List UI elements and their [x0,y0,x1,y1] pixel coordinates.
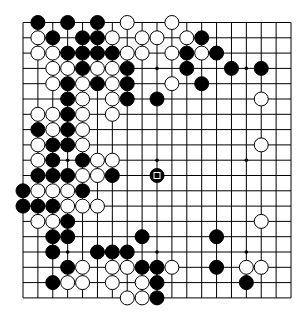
white-stone[interactable] [254,92,268,106]
white-stone[interactable] [46,107,60,121]
white-stone[interactable] [31,46,45,60]
black-stone[interactable] [31,123,45,137]
white-stone[interactable] [254,138,268,152]
white-stone[interactable] [46,123,60,137]
white-stone[interactable] [90,199,104,213]
black-stone[interactable] [210,46,224,60]
black-stone[interactable] [150,291,164,305]
black-stone[interactable] [31,16,45,30]
black-stone[interactable] [105,169,119,183]
white-stone[interactable] [135,291,149,305]
black-stone[interactable] [46,169,60,183]
white-stone[interactable] [46,61,60,75]
white-stone[interactable] [76,107,90,121]
white-stone[interactable] [46,184,60,198]
black-stone[interactable] [90,31,104,45]
white-stone[interactable] [76,138,90,152]
white-stone[interactable] [105,260,119,274]
white-stone[interactable] [46,77,60,91]
black-stone[interactable] [195,31,209,45]
white-stone[interactable] [31,107,45,121]
white-stone[interactable] [61,61,75,75]
white-stone[interactable] [165,16,179,30]
black-stone[interactable] [46,276,60,290]
black-stone[interactable] [224,61,238,75]
go-board[interactable] [0,0,308,317]
black-stone[interactable] [61,92,75,106]
white-stone[interactable] [76,260,90,274]
white-stone[interactable] [31,184,45,198]
white-stone[interactable] [165,46,179,60]
white-stone[interactable] [180,31,194,45]
black-stone[interactable] [135,260,149,274]
black-stone[interactable] [90,245,104,259]
black-stone[interactable] [90,16,104,30]
white-stone[interactable] [76,169,90,183]
white-stone[interactable] [105,107,119,121]
black-stone[interactable] [210,260,224,274]
black-stone[interactable] [76,31,90,45]
white-stone[interactable] [61,184,75,198]
black-stone[interactable] [31,169,45,183]
white-stone[interactable] [135,46,149,60]
black-stone[interactable] [61,16,75,30]
black-stone[interactable] [61,169,75,183]
white-stone[interactable] [105,77,119,91]
white-stone[interactable] [90,61,104,75]
black-stone[interactable] [90,77,104,91]
black-stone[interactable] [210,230,224,244]
black-stone[interactable] [61,77,75,91]
black-stone[interactable] [120,61,134,75]
white-stone[interactable] [105,31,119,45]
black-stone[interactable] [120,92,134,106]
white-stone[interactable] [165,77,179,91]
black-stone[interactable] [46,199,60,213]
white-stone[interactable] [31,153,45,167]
black-stone[interactable] [150,260,164,274]
white-stone[interactable] [46,46,60,60]
black-stone[interactable] [150,169,164,183]
white-stone[interactable] [195,46,209,60]
black-stone[interactable] [46,31,60,45]
black-stone[interactable] [90,46,104,60]
white-stone[interactable] [254,260,268,274]
white-stone[interactable] [105,61,119,75]
black-stone[interactable] [254,61,268,75]
black-stone[interactable] [61,138,75,152]
black-stone[interactable] [61,230,75,244]
black-stone[interactable] [120,77,134,91]
white-stone[interactable] [76,276,90,290]
white-stone[interactable] [61,199,75,213]
black-stone[interactable] [16,184,30,198]
black-stone[interactable] [46,153,60,167]
white-stone[interactable] [105,92,119,106]
white-stone[interactable] [135,31,149,45]
white-stone[interactable] [120,16,134,30]
black-stone[interactable] [31,199,45,213]
black-stone[interactable] [76,153,90,167]
white-stone[interactable] [31,31,45,45]
black-stone[interactable] [105,46,119,60]
white-stone[interactable] [46,214,60,228]
black-stone[interactable] [239,276,253,290]
white-stone[interactable] [76,92,90,106]
white-stone[interactable] [90,153,104,167]
white-stone[interactable] [239,260,253,274]
white-stone[interactable] [120,46,134,60]
black-stone[interactable] [105,245,119,259]
white-stone[interactable] [150,31,164,45]
black-stone[interactable] [16,199,30,213]
white-stone[interactable] [120,260,134,274]
black-stone[interactable] [76,46,90,60]
black-stone[interactable] [61,123,75,137]
white-stone[interactable] [254,214,268,228]
white-stone[interactable] [105,153,119,167]
black-stone[interactable] [61,107,75,121]
white-stone[interactable] [105,276,119,290]
black-stone[interactable] [150,92,164,106]
white-stone[interactable] [76,199,90,213]
black-stone[interactable] [150,276,164,290]
black-stone[interactable] [180,46,194,60]
white-stone[interactable] [31,138,45,152]
black-stone[interactable] [76,184,90,198]
